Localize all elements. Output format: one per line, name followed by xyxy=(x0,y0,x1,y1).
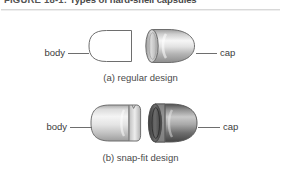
panel-b-caption: (b) snap-fit design xyxy=(0,152,281,163)
capsule-cap-regular xyxy=(146,30,195,63)
capsule-regular-svg xyxy=(0,22,281,70)
header-divider xyxy=(1,9,280,11)
label-cap-b: cap xyxy=(223,121,263,132)
panel-a-caption: (a) regular design xyxy=(0,72,281,83)
capsule-diagram-regular xyxy=(0,22,281,70)
figure-number: FIGURE 18-1: xyxy=(4,0,67,5)
capsule-body-regular xyxy=(89,31,132,62)
figure-caption-text: Types of hard-shell capsules xyxy=(70,0,197,5)
figure-panel-b: body cap (b) snap-fit design xyxy=(0,96,281,174)
leader-line-body-a xyxy=(68,53,89,54)
label-body-b: body xyxy=(27,121,67,132)
leader-line-cap-b xyxy=(198,127,220,128)
leader-line-cap-a xyxy=(196,53,217,54)
label-body-a: body xyxy=(25,47,65,58)
capsule-cap-snapfit xyxy=(148,104,197,142)
capsule-body-snapfit xyxy=(91,105,141,141)
figure-title: FIGURE 18-1: Types of hard-shell capsule… xyxy=(4,0,197,5)
label-cap-a: cap xyxy=(220,47,260,58)
figure-panel-a: body cap (a) regular design xyxy=(0,22,281,88)
leader-line-body-b xyxy=(70,127,92,128)
figure-header: FIGURE 18-1: Types of hard-shell capsule… xyxy=(0,0,281,11)
snapfit-collar-body xyxy=(129,105,141,141)
